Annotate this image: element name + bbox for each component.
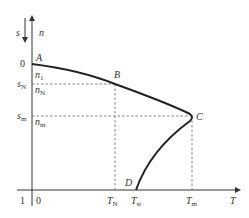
t-axis-label: T [230, 195, 237, 206]
torque-speed-diagram: s n T 0 1 0 A B C D n1 sN nN sm nm TN Ts… [0, 0, 249, 218]
TN-label: TN [107, 195, 118, 208]
point-C-label: C [196, 111, 203, 122]
characteristic-curve [32, 64, 192, 190]
Tm-label: Tm [186, 195, 198, 208]
Tst-label: Tst [131, 195, 141, 208]
sm-label: sm [17, 110, 27, 123]
point-B-label: B [114, 69, 120, 80]
nm-label: nm [35, 116, 46, 129]
n1-label: n1 [35, 69, 44, 82]
origin-bottom-left-label: 1 [20, 195, 25, 206]
point-A-label: A [35, 52, 43, 63]
origin-top-label: 0 [20, 58, 25, 69]
n-axis-label: n [39, 27, 44, 38]
nN-label: nN [35, 84, 45, 97]
s-axis-label: s [16, 27, 20, 38]
origin-bottom-right-label: 0 [36, 195, 41, 206]
point-D-label: D [124, 177, 133, 188]
sN-label: sN [17, 78, 26, 91]
